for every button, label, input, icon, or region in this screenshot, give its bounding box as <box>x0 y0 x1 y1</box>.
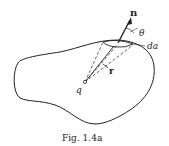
r-vector <box>85 46 114 82</box>
label-r: r <box>109 66 114 76</box>
label-q: q <box>76 85 82 95</box>
figure-caption: Fig. 1.4a <box>62 133 103 143</box>
label-da: da <box>147 41 158 51</box>
dashed-ray-right <box>85 45 133 82</box>
label-n: n <box>130 7 138 18</box>
diagram-canvas: n θ da r q Fig. 1.4a <box>0 0 169 146</box>
normal-arrowhead-icon <box>127 17 132 25</box>
charge-point <box>83 80 86 83</box>
label-theta: θ <box>139 28 145 38</box>
dashed-ray-left <box>85 42 103 82</box>
r-tick <box>103 64 108 68</box>
